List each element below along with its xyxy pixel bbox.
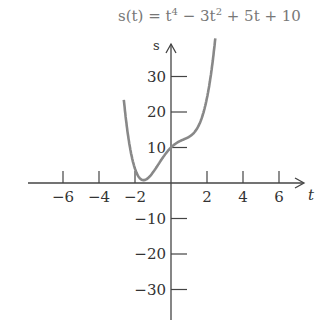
x-tick-label: 6: [274, 188, 284, 206]
y-tick-label: −20: [134, 245, 166, 263]
x-tick-label: 4: [238, 188, 248, 206]
x-tick-label: −4: [88, 188, 110, 206]
title-prefix: s(t) = t: [118, 7, 172, 25]
y-axis-label: s: [153, 38, 160, 53]
chart-container: s(t) = t4 − 3t2 + 5t + 10 ts−6−4−2246302…: [0, 0, 334, 326]
title-suffix: + 5t + 10: [222, 7, 301, 25]
function-curve: [124, 38, 216, 180]
chart-title: s(t) = t4 − 3t2 + 5t + 10: [118, 6, 301, 25]
x-tick-label: 2: [202, 188, 212, 206]
y-tick-label: 30: [147, 68, 166, 86]
x-tick-label: −2: [124, 188, 146, 206]
y-tick-label: 10: [147, 139, 166, 157]
title-mid: − 3t: [178, 7, 216, 25]
y-tick-label: −30: [134, 281, 166, 299]
x-axis-label: t: [308, 186, 315, 204]
plot-area: ts−6−4−2246302010−10−20−30: [0, 0, 334, 326]
y-tick-label: 20: [147, 103, 166, 121]
x-tick-label: −6: [52, 188, 74, 206]
y-tick-label: −10: [134, 210, 166, 228]
